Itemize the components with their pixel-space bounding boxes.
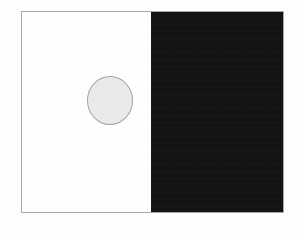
figure-page [0,0,298,233]
light-background-panel [22,12,151,212]
light-panel-label [22,12,23,13]
gray-disc-on-light-label [88,77,89,78]
figure-caption [0,0,1,1]
figure-frame [21,11,284,213]
dark-panel-label [151,12,152,13]
gray-disc-on-light [87,76,133,125]
dark-background-panel [151,12,283,212]
